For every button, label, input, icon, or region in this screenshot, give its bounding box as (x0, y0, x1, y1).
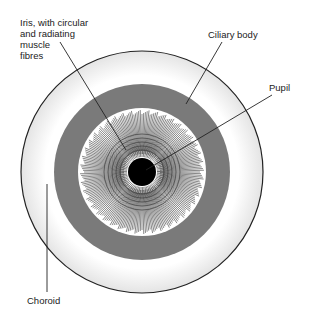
iris-label-line: fibres (20, 50, 88, 61)
choroid-label: Choroid (27, 295, 60, 306)
iris-label-line: muscle (20, 39, 88, 50)
ciliary-body-label: Ciliary body (208, 29, 258, 40)
pupil (128, 158, 156, 186)
iris-label-line: Iris, with circular (20, 17, 88, 28)
iris-label-line: and radiating (20, 28, 88, 39)
pupil-label: Pupil (269, 82, 290, 93)
iris-label: Iris, with circular and radiating muscle… (20, 17, 88, 61)
